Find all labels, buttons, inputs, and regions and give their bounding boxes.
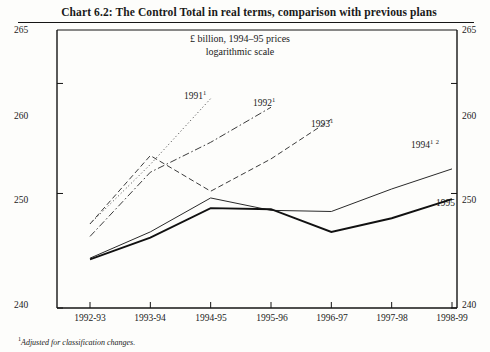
plot-area [0,0,490,352]
series-line-1991 [90,99,211,224]
chart-container: Chart 6.2: The Control Total in real ter… [0,0,490,352]
series-line-1995 [90,199,452,259]
series-line-1992 [90,107,271,236]
series-line-1994 [90,169,452,258]
